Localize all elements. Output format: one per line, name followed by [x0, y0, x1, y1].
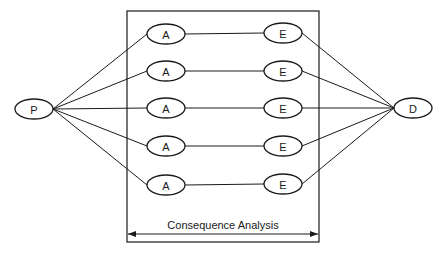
- edge-e-d4: [302, 108, 394, 146]
- node-e3-label: E: [279, 103, 286, 115]
- consequence-analysis-box: [127, 11, 319, 242]
- node-a2-label: A: [162, 66, 170, 78]
- node-a4-label: A: [162, 141, 170, 153]
- edge-e-d5: [302, 108, 394, 184]
- edge-p-a5: [53, 109, 147, 185]
- edge-e-d1: [302, 33, 394, 108]
- node-a4: A: [147, 136, 185, 156]
- node-p-label: P: [30, 104, 37, 116]
- node-p: P: [15, 99, 53, 119]
- node-a2: A: [147, 61, 185, 81]
- node-d-label: D: [409, 103, 417, 115]
- edges: [53, 33, 394, 185]
- node-e4-label: E: [279, 141, 286, 153]
- node-e5-label: E: [279, 179, 286, 191]
- node-a1-label: A: [162, 29, 170, 41]
- node-e1-label: E: [279, 28, 286, 40]
- node-a5: A: [147, 175, 185, 195]
- node-d: D: [394, 98, 432, 118]
- node-a1: A: [147, 24, 185, 44]
- edge-p-a2: [53, 71, 147, 109]
- consequence-analysis-span: Consequence Analysis: [128, 219, 318, 234]
- edge-a-e5: [185, 184, 264, 185]
- node-e5: E: [264, 174, 302, 194]
- node-a3: A: [147, 98, 185, 118]
- edge-p-a3: [53, 108, 147, 109]
- edge-a-e1: [185, 33, 264, 34]
- consequence-analysis-diagram: PDAAAAAEEEEE Consequence Analysis: [0, 0, 446, 254]
- node-e2-label: E: [279, 66, 286, 78]
- node-e3: E: [264, 98, 302, 118]
- node-a3-label: A: [162, 103, 170, 115]
- edge-e-d2: [302, 71, 394, 108]
- node-e1: E: [264, 23, 302, 43]
- node-a5-label: A: [162, 180, 170, 192]
- node-e4: E: [264, 136, 302, 156]
- edge-p-a4: [53, 109, 147, 146]
- span-label: Consequence Analysis: [167, 219, 279, 231]
- node-e2: E: [264, 61, 302, 81]
- edge-p-a1: [53, 34, 147, 109]
